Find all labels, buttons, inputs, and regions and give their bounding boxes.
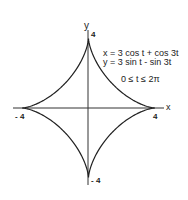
y-pos-tick: 4 — [91, 31, 95, 39]
y-axis-label: y — [84, 21, 89, 31]
parameter-range: 0 ≤ t ≤ 2π — [121, 74, 160, 84]
equation-y: y = 3 sin t - sin 3t — [103, 57, 171, 67]
y-neg-tick: - 4 — [91, 177, 100, 185]
x-neg-tick: - 4 — [15, 113, 24, 121]
x-axis-label: x — [166, 103, 171, 112]
x-pos-tick: 4 — [153, 113, 157, 121]
